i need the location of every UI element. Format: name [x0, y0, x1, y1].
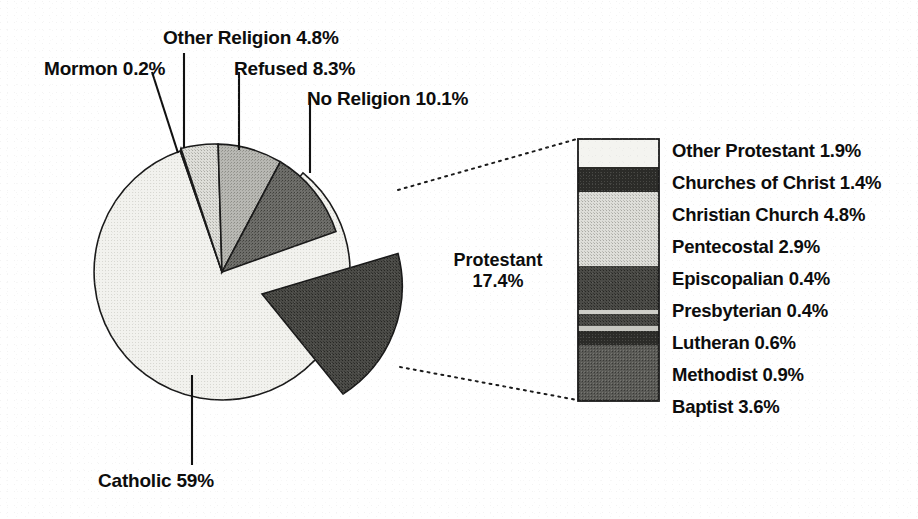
- legend-item-other-protestant: Other Protestant 1.9%: [672, 140, 861, 162]
- legend-item-churches-of-christ: Churches of Christ 1.4%: [672, 172, 881, 194]
- legend-item-presbyterian: Presbyterian 0.4%: [672, 300, 828, 322]
- legend-item-baptist: Baptist 3.6%: [672, 396, 780, 418]
- bar-band-churches-of-christ[interactable]: [578, 167, 659, 192]
- pie-label-catholic: Catholic 59%: [98, 470, 214, 492]
- bar-band-christian-church[interactable]: [578, 192, 659, 236]
- pie-label-protestant: Protestant 17.4%: [428, 250, 568, 291]
- pie-label-refused: Refused 8.3%: [234, 58, 355, 80]
- pie-label-other-religion: Other Religion 4.8%: [163, 27, 339, 49]
- legend-item-episcopalian: Episcopalian 0.4%: [672, 268, 830, 290]
- breakout-stacked-bar[interactable]: [578, 139, 659, 401]
- protestant-label-line2: 17.4%: [428, 271, 568, 292]
- bar-band-methodist[interactable]: [578, 331, 659, 345]
- legend-item-lutheran: Lutheran 0.6%: [672, 332, 796, 354]
- legend-item-methodist: Methodist 0.9%: [672, 364, 804, 386]
- bar-band-pentecostal[interactable]: [578, 236, 659, 266]
- bar-band-episcopalian[interactable]: [578, 266, 659, 310]
- protestant-label-line1: Protestant: [428, 250, 568, 271]
- pie-label-no-religion: No Religion 10.1%: [307, 88, 468, 110]
- pie-label-mormon: Mormon 0.2%: [44, 58, 165, 80]
- legend-item-pentecostal: Pentecostal 2.9%: [672, 236, 820, 258]
- bar-band-presbyterian-fill[interactable]: [578, 314, 659, 326]
- bar-band-baptist[interactable]: [578, 345, 659, 401]
- legend-item-christian-church: Christian Church 4.8%: [672, 204, 865, 226]
- bar-band-lutheran[interactable]: [578, 326, 659, 331]
- bar-band-other-protestant[interactable]: [578, 139, 659, 167]
- bar-band-presbyterian[interactable]: [578, 310, 659, 314]
